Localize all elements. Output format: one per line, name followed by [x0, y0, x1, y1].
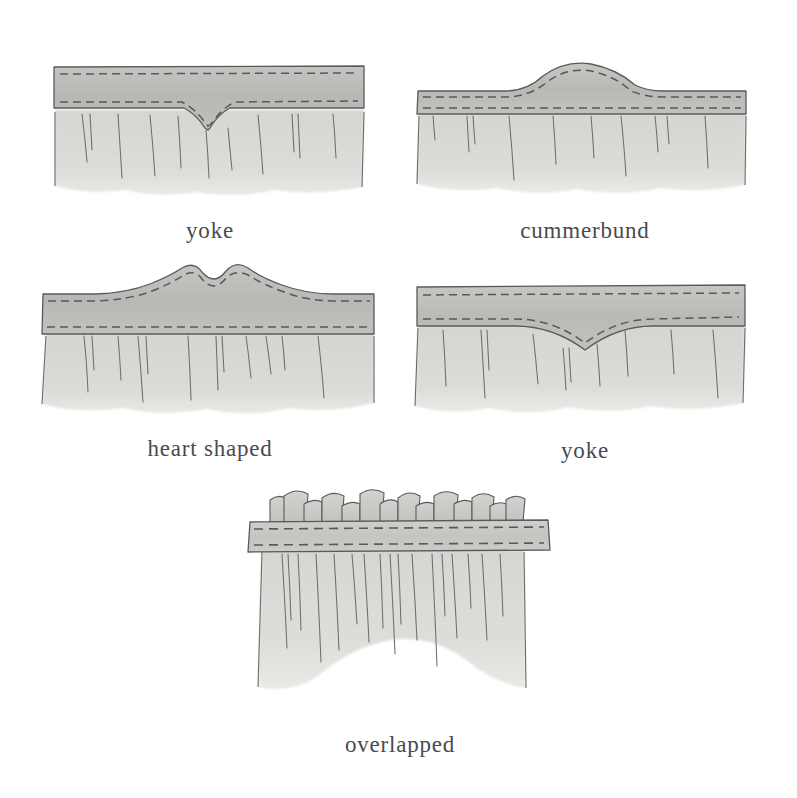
cummerbund-drawing	[405, 58, 765, 210]
heart-shaped-drawing	[30, 262, 390, 428]
skirt	[42, 334, 374, 413]
figure-yoke-curve	[405, 278, 765, 430]
figure-cummerbund	[405, 58, 765, 210]
overlap-tabs	[270, 490, 525, 522]
heading-band	[42, 265, 374, 334]
caption-yoke-v: yoke	[30, 219, 390, 242]
caption-overlapped: overlapped	[200, 733, 600, 756]
caption-heart-shaped: heart shaped	[30, 437, 390, 460]
skirt	[417, 114, 746, 193]
figure-yoke-v	[30, 58, 390, 210]
figure-overlapped	[200, 482, 600, 714]
figure-heart-shaped	[30, 262, 390, 428]
heading-band	[417, 63, 746, 114]
caption-yoke-curve: yoke	[405, 439, 765, 462]
skirt	[258, 550, 526, 689]
caption-cummerbund: cummerbund	[405, 219, 765, 242]
overlapped-drawing	[200, 482, 600, 714]
stitch-row-top	[60, 73, 358, 74]
illustration-plate: yoke	[0, 0, 797, 798]
heading-band	[248, 520, 550, 552]
yoke-curve-drawing	[405, 278, 765, 430]
yoke-v-drawing	[30, 58, 390, 210]
